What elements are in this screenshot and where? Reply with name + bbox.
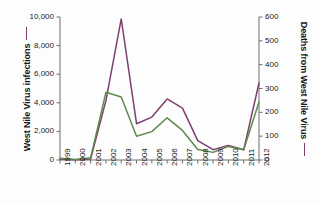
series-line <box>60 19 259 160</box>
right-tick-label: 600 <box>265 12 305 21</box>
x-tick-label: 2001 <box>94 148 103 166</box>
chart-figure: West Nile Virus infections Deaths from W… <box>0 0 320 204</box>
right-tick-label: 0 <box>265 155 305 164</box>
right-tick-label: 500 <box>265 36 305 45</box>
x-tick-label: 2011 <box>247 149 256 166</box>
right-tick-label: 400 <box>265 60 305 69</box>
right-tick-label: 300 <box>265 84 305 93</box>
x-tick-label: 2004 <box>140 148 149 166</box>
x-tick-label: 2003 <box>124 148 133 166</box>
right-tick-label: 200 <box>265 107 305 116</box>
x-tick-label: 2010 <box>231 148 240 166</box>
x-tick-label: 2000 <box>78 148 87 166</box>
x-tick-label: 2012 <box>262 148 271 166</box>
x-tick-label: 2007 <box>185 148 194 166</box>
x-tick-label: 1999 <box>63 148 72 166</box>
x-tick-label: 2002 <box>109 148 118 166</box>
left-tick-label: 6,000 <box>14 69 54 78</box>
x-tick-label: 2005 <box>155 148 164 166</box>
left-tick-label: 10,000 <box>14 12 54 21</box>
x-tick-label: 2008 <box>201 148 210 166</box>
left-tick-label: 2,000 <box>14 126 54 135</box>
left-tick-label: 8,000 <box>14 41 54 50</box>
x-tick-label: 2009 <box>216 148 225 166</box>
x-tick-label: 2006 <box>170 148 179 166</box>
left-tick-label: 0 <box>14 155 54 164</box>
left-tick-label: 4,000 <box>14 98 54 107</box>
right-tick-label: 100 <box>265 131 305 140</box>
